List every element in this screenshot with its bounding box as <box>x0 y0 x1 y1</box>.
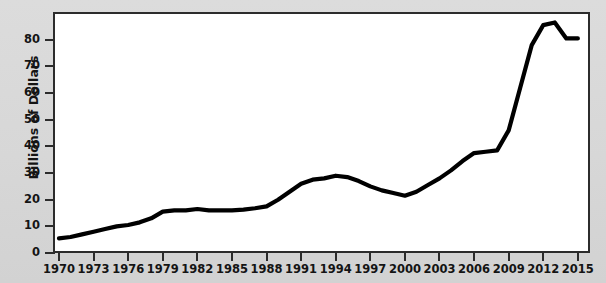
x-axis-tick <box>196 253 198 261</box>
y-axis-tick-label: 70 <box>14 60 40 71</box>
y-axis-tick <box>45 119 55 121</box>
x-axis-tick <box>577 253 579 261</box>
y-axis-tick-label: 80 <box>14 34 40 45</box>
y-axis-tick <box>45 92 55 94</box>
axis-ticks-layer: 0102030405060708019701973197619791982198… <box>0 0 606 283</box>
y-axis-tick-label: 40 <box>14 140 40 151</box>
x-axis-tick <box>127 253 129 261</box>
y-axis-tick-label: 0 <box>14 247 40 258</box>
y-axis-tick-label: 20 <box>14 194 40 205</box>
x-axis-tick <box>93 253 95 261</box>
x-axis-tick <box>300 253 302 261</box>
y-axis-tick-label: 30 <box>14 167 40 178</box>
y-axis-tick <box>45 225 55 227</box>
x-axis-tick <box>335 253 337 261</box>
y-axis-tick <box>45 145 55 147</box>
x-axis-tick <box>473 253 475 261</box>
x-axis-tick <box>162 253 164 261</box>
y-axis-tick <box>45 172 55 174</box>
x-axis-tick <box>404 253 406 261</box>
x-axis-tick <box>508 253 510 261</box>
x-axis-tick-label: 2015 <box>558 263 598 275</box>
x-axis-tick <box>438 253 440 261</box>
y-axis-tick <box>45 65 55 67</box>
x-axis-tick <box>369 253 371 261</box>
x-axis-tick <box>542 253 544 261</box>
x-axis-tick <box>58 253 60 261</box>
y-axis-tick <box>45 199 55 201</box>
y-axis-tick-label: 50 <box>14 114 40 125</box>
y-axis-tick <box>45 39 55 41</box>
x-axis-tick <box>266 253 268 261</box>
y-axis-tick-label: 10 <box>14 220 40 231</box>
y-axis-tick-label: 60 <box>14 87 40 98</box>
y-axis-tick <box>45 252 55 254</box>
chart-figure: Billions of Dollars 01020304050607080197… <box>0 0 606 283</box>
x-axis-tick <box>231 253 233 261</box>
